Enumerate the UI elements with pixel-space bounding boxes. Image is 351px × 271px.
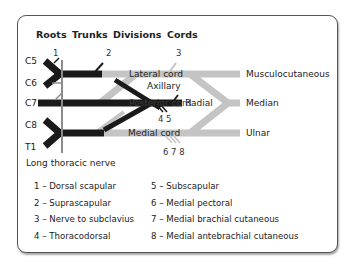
- legend-item: 3 – Nerve to subclavius: [34, 211, 134, 228]
- header-roots: Roots: [36, 29, 67, 40]
- legend-item: 7 – Medial brachial cutaneous: [151, 211, 298, 228]
- root-t1-label: T1: [24, 142, 36, 152]
- header-divisions: Divisions: [113, 29, 162, 40]
- legend-left: 1 – Dorsal scapular 2 – Suprascapular 3 …: [34, 178, 134, 244]
- root-c5-label: C5: [25, 56, 37, 66]
- legend-item: 8 – Medial antebrachial cutaneous: [151, 228, 298, 245]
- axillary-label: Axillary: [147, 81, 181, 91]
- musculocutaneous-label: Musculocutaneous: [246, 69, 330, 79]
- radial-label: Radial: [185, 98, 213, 108]
- legend-item: 1 – Dorsal scapular: [34, 178, 134, 195]
- ulnar-label: Ulnar: [246, 128, 270, 138]
- legend-item: 5 – Subscapular: [151, 178, 298, 195]
- long-thoracic-label: Long thoracic nerve: [26, 158, 116, 168]
- legend-right: 5 – Subscapular 6 – Medial pectoral 7 – …: [151, 178, 298, 244]
- lateral-cord-label: Lateral cord: [129, 69, 183, 79]
- medial-cord-label: Medial cord: [128, 128, 180, 138]
- marker-4-5: 4 5: [158, 114, 172, 124]
- legend-item: 2 – Suprascapular: [34, 195, 134, 212]
- root-c7-label: C7: [25, 98, 37, 108]
- marker-1: 1: [53, 48, 58, 58]
- header-cords: Cords: [167, 29, 198, 40]
- posterior-cord-label: Posterior cord: [129, 98, 191, 108]
- marker-3: 3: [176, 48, 181, 58]
- root-c6-label: C6: [25, 78, 37, 88]
- median-label: Median: [246, 98, 279, 108]
- marker-2: 2: [106, 48, 111, 58]
- header-trunks: Trunks: [72, 29, 108, 40]
- root-c8-label: C8: [25, 120, 37, 130]
- marker-6-7-8: 6 7 8: [163, 147, 185, 157]
- legend-item: 6 – Medial pectoral: [151, 195, 298, 212]
- legend-item: 4 – Thoracodorsal: [34, 228, 134, 245]
